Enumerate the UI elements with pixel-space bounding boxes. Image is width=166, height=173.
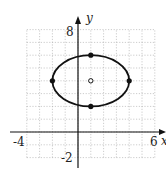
co-vertex-point bbox=[88, 53, 93, 58]
grid bbox=[27, 30, 155, 158]
vertex-point bbox=[50, 78, 55, 83]
co-vertex-point bbox=[88, 104, 93, 109]
vertex-point bbox=[127, 78, 132, 83]
y-axis-arrow-icon bbox=[75, 16, 81, 24]
x-max-tick-label: 6 bbox=[150, 136, 158, 148]
y-max-tick-label: 8 bbox=[66, 26, 74, 38]
center-point-open bbox=[89, 79, 93, 83]
axes bbox=[10, 16, 166, 168]
x-min-tick-label: -4 bbox=[13, 136, 25, 148]
y-axis-label: y bbox=[86, 12, 93, 24]
y-min-tick-label: -2 bbox=[61, 152, 73, 164]
x-axis-label: x bbox=[161, 135, 166, 147]
